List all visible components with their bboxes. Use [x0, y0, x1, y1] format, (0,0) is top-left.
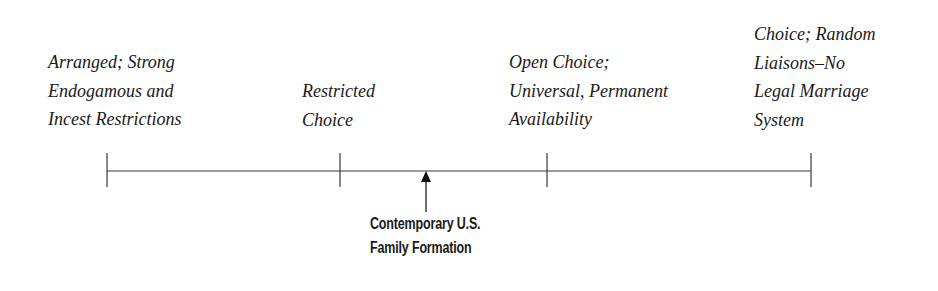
marker-label-line: Family Formation — [370, 236, 480, 260]
arrow-up-icon — [421, 171, 431, 212]
marker-label-line: Contemporary U.S. — [370, 212, 480, 236]
marker-label-contemporary-us: Contemporary U.S. Family Formation — [370, 212, 480, 260]
